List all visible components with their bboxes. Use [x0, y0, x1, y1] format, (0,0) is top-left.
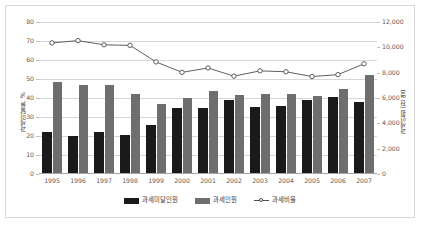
y-axis-tick-label-right: 10,000 [382, 44, 404, 50]
x-axis-tick-label: 2004 [278, 177, 294, 185]
legend-item[interactable]: 과세인원 [195, 197, 237, 204]
legend-item[interactable]: 과세비율 [254, 197, 296, 204]
x-axis-tick-label: 1999 [148, 177, 164, 185]
legend-line-marker-icon [254, 198, 269, 204]
x-axis-tick-label: 1998 [122, 177, 138, 185]
line-marker-taxratio [50, 41, 54, 45]
chart-legend: 과세미달인원과세인원과세비율 [6, 197, 414, 204]
y-axis-tick-label-left: 30 [26, 114, 34, 120]
legend-swatch-icon [124, 198, 139, 204]
line-marker-taxratio [128, 43, 132, 47]
legend-label: 과세비율 [272, 197, 296, 204]
y-axis-tick-label-left: 10 [26, 152, 34, 158]
plot-area: 01020304050607080 02,0004,0006,0008,0001… [39, 22, 377, 174]
y-axis-tick-label-left: 40 [26, 95, 34, 101]
legend-item[interactable]: 과세미달인원 [124, 197, 178, 204]
y-axis-tick-label-right: 8,000 [382, 70, 400, 76]
y-axis-tick-mark-right [377, 123, 380, 124]
y-axis-tick-label-right: 2,000 [382, 146, 400, 152]
line-series-overlay [39, 22, 377, 174]
y-axis-tick-label-left: 20 [26, 133, 34, 139]
y-axis-tick-label-left: 60 [26, 57, 34, 63]
y-axis-tick-mark-right [377, 22, 380, 23]
line-marker-taxratio [76, 38, 80, 42]
line-path-taxratio [52, 41, 364, 77]
x-axis-tick-label: 2005 [304, 177, 320, 185]
line-marker-taxratio [102, 43, 106, 47]
line-marker-taxratio [206, 66, 210, 70]
y-axis-tick-label-right: 4,000 [382, 120, 400, 126]
y-axis-tick-mark-right [377, 98, 380, 99]
y-axis-tick-label-right: 0 [382, 171, 386, 177]
x-axis-baseline [39, 173, 377, 174]
line-marker-taxratio [336, 72, 340, 76]
y-axis-tick-mark-right [377, 174, 380, 175]
line-marker-taxratio [362, 62, 366, 66]
legend-label: 과세인원 [213, 197, 237, 204]
x-axis-tick-label: 2007 [356, 177, 372, 185]
y-axis-tick-mark-right [377, 73, 380, 74]
y-axis-tick-mark-left [36, 174, 39, 175]
x-axis-tick-label: 2003 [252, 177, 268, 185]
y-axis-tick-mark-right [377, 47, 380, 48]
chart-container: 과세미달률, % 과세인원 (천 명) 01020304050607080 02… [5, 5, 415, 218]
y-axis-tick-label-right: 6,000 [382, 95, 400, 101]
line-marker-taxratio [310, 74, 314, 78]
x-axis-tick-label: 2002 [226, 177, 242, 185]
line-marker-taxratio [232, 74, 236, 78]
line-marker-taxratio [258, 69, 262, 73]
line-marker-taxratio [284, 70, 288, 74]
y-axis-tick-label-right: 12,000 [382, 19, 404, 25]
y-axis-tick-label-left: 70 [26, 38, 34, 44]
x-axis-tick-label: 2006 [330, 177, 346, 185]
x-axis-tick-label: 1996 [70, 177, 86, 185]
legend-label: 과세미달인원 [142, 197, 178, 204]
y-axis-title-right: 과세인원 (천 명) [400, 89, 406, 134]
x-axis-labels: 1995199619971998199920002001200220032004… [39, 177, 377, 189]
y-axis-tick-label-left: 80 [26, 19, 34, 25]
y-axis-tick-label-left: 50 [26, 76, 34, 82]
x-axis-tick-label: 2000 [174, 177, 190, 185]
y-axis-tick-label-left: 0 [30, 171, 34, 177]
x-axis-tick-label: 2001 [200, 177, 216, 185]
y-axis-tick-mark-right [377, 149, 380, 150]
line-marker-taxratio [154, 60, 158, 64]
x-axis-tick-label: 1995 [44, 177, 60, 185]
legend-swatch-icon [195, 198, 210, 204]
x-axis-tick-label: 1997 [96, 177, 112, 185]
line-marker-taxratio [180, 70, 184, 74]
